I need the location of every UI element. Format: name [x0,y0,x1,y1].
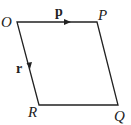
vertex-label-r: R [27,104,37,120]
vertex-label-p: P [97,7,107,23]
parallelogram-OPQR [17,22,118,105]
arrowhead-p-icon [64,19,71,25]
vector-label-p: p [55,4,63,19]
vector-label-r: r [16,61,22,76]
vertex-label-q: Q [114,108,125,124]
vertex-label-o: O [1,14,12,30]
parallelogram-diagram: O P Q R p r [0,0,131,125]
